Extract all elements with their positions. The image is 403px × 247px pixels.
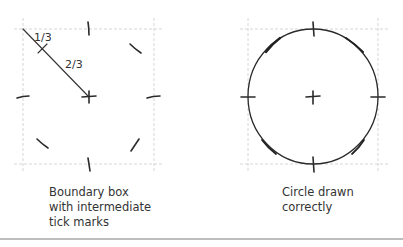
- one-third-label: 1/3: [34, 31, 52, 44]
- bottom-tick: [88, 158, 90, 171]
- circle-sketch-arc-ul: [266, 38, 280, 52]
- right-caption: Circle drawn correctly: [282, 185, 354, 215]
- left-diagonal-measure: 1/3 2/3: [23, 29, 89, 97]
- circle-top-tick: [313, 22, 314, 36]
- circle-sketch-arc-ll: [262, 140, 276, 154]
- left-caption-line-1: Boundary box: [49, 185, 151, 200]
- right-boundary-box: [240, 18, 388, 173]
- circle-tick-marks: [241, 22, 385, 172]
- top-tick: [88, 22, 89, 35]
- circle-sketch-arc-ur: [346, 38, 363, 52]
- lower-left-tick: [37, 139, 48, 148]
- circle-sketch-arc-lr: [352, 140, 364, 154]
- right-tick: [147, 96, 160, 98]
- circle-bottom-tick: [313, 157, 314, 172]
- left-caption-line-2: with intermediate: [49, 200, 151, 215]
- two-thirds-label: 2/3: [65, 58, 83, 71]
- bottom-divider: [0, 238, 403, 240]
- left-caption-line-3: tick marks: [49, 215, 151, 230]
- right-caption-line-2: correctly: [282, 200, 354, 215]
- upper-right-tick: [130, 44, 141, 53]
- left-tick: [17, 96, 29, 98]
- right-caption-line-1: Circle drawn: [282, 185, 354, 200]
- lower-right-tick: [131, 139, 139, 151]
- left-caption: Boundary box with intermediate tick mark…: [49, 185, 151, 230]
